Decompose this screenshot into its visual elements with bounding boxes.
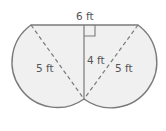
label-height: 4 ft	[87, 54, 105, 66]
label-top: 6 ft	[76, 10, 94, 22]
composite-figure-diagram: 6 ft 4 ft 5 ft 5 ft	[0, 0, 166, 131]
label-left-diameter: 5 ft	[36, 62, 54, 74]
label-right-diameter: 5 ft	[115, 62, 133, 74]
